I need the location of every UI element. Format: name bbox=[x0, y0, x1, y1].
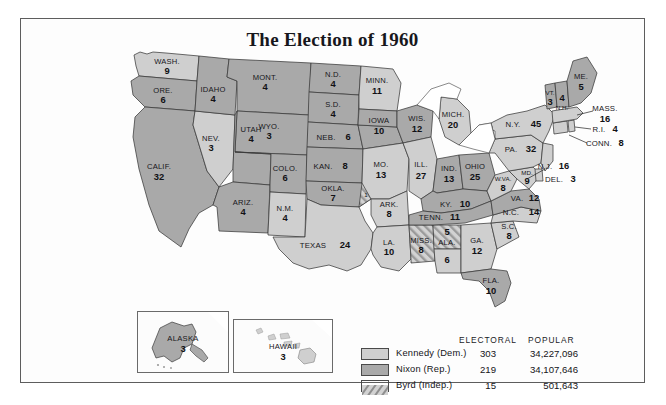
inset-alaska[interactable]: ALASKA 3 bbox=[137, 311, 229, 373]
legend-name-byrd: Byrd (Indep.) bbox=[396, 380, 452, 390]
legend-header-electoral: ELECTORAL bbox=[459, 335, 517, 345]
state-label-NC: N.C. bbox=[503, 208, 519, 217]
map-frame: The Election of 1960 bbox=[20, 18, 645, 383]
state-label-NJ: N.J. bbox=[538, 162, 553, 171]
state-votes-NM: 4 bbox=[282, 212, 288, 223]
legend-popular-nixon: 34,107,646 bbox=[498, 364, 578, 375]
legend-row-kennedy[interactable]: Kennedy (Dem.) 303 34,227,096 bbox=[356, 347, 606, 362]
state-votes-CA: 32 bbox=[154, 171, 164, 182]
state-votes-AR: 8 bbox=[386, 208, 391, 219]
state-label-CT: CONN. bbox=[586, 139, 612, 148]
state-votes-TN: 11 bbox=[450, 211, 460, 222]
state-votes-IL: 27 bbox=[416, 170, 426, 181]
state-votes-SD: 4 bbox=[330, 108, 336, 119]
legend-popular-kennedy: 34,227,096 bbox=[498, 348, 578, 359]
state-votes-AL-kennedy: 6 bbox=[444, 254, 449, 265]
legend-row-byrd[interactable]: Byrd (Indep.) 15 501,643 bbox=[356, 379, 606, 394]
state-votes-WY: 3 bbox=[266, 130, 271, 141]
state-votes-OH: 25 bbox=[470, 171, 480, 182]
inset-votes-hawaii: 3 bbox=[234, 351, 332, 362]
state-label-KS: KAN. bbox=[314, 162, 333, 171]
state-votes-IN: 13 bbox=[444, 173, 454, 184]
state-votes-CT: 8 bbox=[618, 137, 623, 148]
state-votes-TX: 24 bbox=[340, 239, 351, 250]
state-votes-CO: 6 bbox=[282, 172, 287, 183]
us-electoral-map: WASH. 9 ORE. 6 CALIF. 32 NEV. 3 IDAHO 4 … bbox=[21, 19, 646, 384]
state-label-WV: W.VA. bbox=[495, 175, 512, 182]
state-label-RI: R.I. bbox=[593, 125, 606, 134]
state-label-VA: VA. bbox=[511, 194, 524, 203]
byrd-hatch-icon bbox=[362, 385, 388, 395]
state-votes-MD: 9 bbox=[524, 175, 529, 186]
state-votes-OR: 6 bbox=[160, 94, 165, 105]
state-label-OH: OHIO bbox=[465, 162, 485, 171]
state-label-NE: NEB. bbox=[317, 133, 336, 142]
state-votes-SC: 8 bbox=[506, 230, 511, 241]
state-votes-MI: 20 bbox=[448, 119, 458, 130]
state-label-IL: ILL. bbox=[414, 160, 427, 169]
legend-name-nixon: Nixon (Rep.) bbox=[396, 364, 451, 374]
state-label-IN: IND. bbox=[441, 164, 457, 173]
state-label-DE: DEL. bbox=[545, 175, 563, 184]
map-legend: ELECTORAL POPULAR Kennedy (Dem.) 303 34,… bbox=[356, 335, 606, 397]
state-votes-AL-byrd: 5 bbox=[444, 226, 449, 237]
legend-electoral-kennedy: 303 bbox=[452, 348, 496, 359]
state-votes-NC: 14 bbox=[529, 206, 540, 217]
state-label-TN: TENN. bbox=[419, 213, 443, 222]
state-votes-IA: 10 bbox=[374, 125, 384, 136]
state-votes-MN: 11 bbox=[372, 85, 382, 96]
state-label-ME: ME. bbox=[574, 72, 588, 81]
state-votes-ME: 5 bbox=[578, 81, 583, 92]
state-votes-KY: 10 bbox=[460, 198, 470, 209]
state-label-WI: WIS. bbox=[408, 114, 425, 123]
state-label-NH: N.H. bbox=[556, 104, 569, 111]
legend-row-nixon[interactable]: Nixon (Rep.) 219 34,107,646 bbox=[356, 363, 606, 378]
state-votes-MA: 16 bbox=[600, 113, 610, 124]
legend-electoral-nixon: 219 bbox=[452, 364, 496, 375]
state-votes-NJ: 16 bbox=[559, 160, 569, 171]
inset-hawaii[interactable]: HAWAII 3 bbox=[233, 319, 333, 373]
state-votes-AZ: 4 bbox=[240, 206, 246, 217]
state-votes-VA: 12 bbox=[529, 192, 539, 203]
state-votes-NY: 45 bbox=[531, 118, 541, 129]
state-votes-NV: 3 bbox=[208, 142, 213, 153]
state-label-KY: KY. bbox=[440, 200, 452, 209]
state-label-FL: FLA. bbox=[483, 276, 500, 285]
state-RI[interactable] bbox=[568, 120, 575, 132]
inset-label-hawaii: HAWAII bbox=[234, 342, 332, 351]
state-MT[interactable] bbox=[227, 59, 311, 115]
state-label-CA: CALIF. bbox=[147, 162, 171, 171]
state-votes-MS: 8 bbox=[418, 244, 423, 255]
state-label-MN: MINN. bbox=[366, 76, 389, 85]
state-votes-DE: 3 bbox=[570, 173, 575, 184]
state-votes-FL: 10 bbox=[486, 285, 496, 296]
state-label-TX: TEXAS bbox=[300, 241, 327, 250]
state-votes-WA: 9 bbox=[164, 65, 169, 76]
state-votes-PA: 32 bbox=[526, 143, 536, 154]
state-votes-WV: 8 bbox=[500, 182, 505, 193]
state-votes-UT: 4 bbox=[248, 133, 254, 144]
state-label-IA: IOWA bbox=[369, 116, 391, 125]
legend-swatch-nixon bbox=[361, 364, 389, 376]
state-label-GA: GA. bbox=[470, 236, 484, 245]
state-votes-ID: 4 bbox=[210, 93, 216, 104]
state-votes-GA: 12 bbox=[472, 245, 482, 256]
state-votes-NE: 6 bbox=[345, 131, 350, 142]
state-label-MI: MICH. bbox=[442, 110, 465, 119]
state-votes-WI: 12 bbox=[412, 123, 422, 134]
state-label-MA: MASS. bbox=[592, 104, 617, 113]
legend-swatch-kennedy bbox=[361, 348, 389, 360]
state-label-PA: PA. bbox=[505, 145, 518, 154]
state-votes-ND: 4 bbox=[330, 78, 336, 89]
state-votes-VT: 3 bbox=[547, 96, 552, 107]
legend-popular-byrd: 501,643 bbox=[498, 380, 578, 391]
legend-swatch-byrd bbox=[361, 380, 389, 392]
state-label-AL: ALA. bbox=[438, 238, 455, 247]
state-votes-LA: 10 bbox=[384, 246, 394, 257]
legend-header-popular: POPULAR bbox=[528, 335, 574, 345]
state-votes-MT: 4 bbox=[262, 81, 268, 92]
state-label-VT: VT. bbox=[546, 89, 555, 96]
state-votes-OK-byrd: 1 bbox=[364, 191, 368, 198]
state-votes-RI: 4 bbox=[612, 123, 618, 134]
state-votes-NH: 4 bbox=[559, 92, 565, 103]
